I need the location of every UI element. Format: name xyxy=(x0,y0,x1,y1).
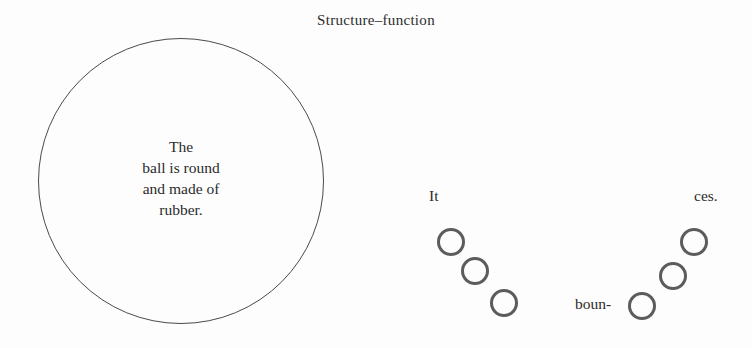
bounce-ball-ascending-2 xyxy=(659,262,687,290)
bounce-ball-descending-1 xyxy=(437,228,465,256)
bounce-ball-descending-2 xyxy=(461,257,489,285)
structure-line-3: and made of xyxy=(38,178,324,199)
function-caption-boun: boun- xyxy=(575,295,611,313)
function-caption-it: It xyxy=(429,187,438,205)
bounce-ball-ascending-1 xyxy=(628,292,656,320)
bounce-ball-descending-3 xyxy=(490,289,518,317)
figure-canvas: Structure–function The ball is round and… xyxy=(0,0,752,348)
function-caption-ces: ces. xyxy=(694,187,718,205)
structure-line-4: rubber. xyxy=(38,199,324,220)
structure-line-2: ball is round xyxy=(38,157,324,178)
bounce-ball-ascending-3 xyxy=(680,228,708,256)
figure-title: Structure–function xyxy=(0,12,752,29)
structure-line-1: The xyxy=(38,136,324,157)
structure-description: The ball is round and made of rubber. xyxy=(38,136,324,220)
